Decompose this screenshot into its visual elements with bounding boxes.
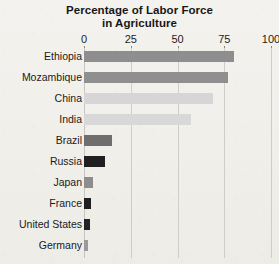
category-label-brazil: Brazil [56,132,82,154]
x-tick-label-25: 25 [125,33,137,45]
category-label-germany: Germany [39,237,82,259]
bar-rows: EthiopiaMozambiqueChinaIndiaBrazilRussia… [0,48,279,258]
bar-row: France [0,195,279,216]
bar-united-states [84,219,90,230]
bar-china [84,93,213,104]
x-tick-label-100: 100 [262,33,279,45]
bar-japan [84,177,93,188]
category-label-ethiopia: Ethiopia [44,48,82,70]
bar-row: China [0,90,279,111]
category-label-china: China [55,90,82,112]
bar-row: Germany [0,237,279,258]
bar-row: Mozambique [0,69,279,90]
category-label-india: India [59,111,82,133]
chart-title-line-2: in Agriculture [0,17,279,30]
bar-russia [84,156,105,167]
bar-row: United States [0,216,279,237]
bar-ethiopia [84,51,234,62]
bar-row: Brazil [0,132,279,153]
bar-row: Russia [0,153,279,174]
category-label-united-states: United States [19,216,82,238]
category-label-mozambique: Mozambique [22,69,82,91]
x-tick-label-50: 50 [171,33,183,45]
bar-row: Japan [0,174,279,195]
x-axis-tick-labels: 0255075100 [0,33,279,47]
bar-mozambique [84,72,228,83]
bar-germany [84,240,88,251]
bar-row: India [0,111,279,132]
x-tick-label-0: 0 [81,33,87,45]
category-label-japan: Japan [53,174,82,196]
bar-row: Ethiopia [0,48,279,69]
chart-title: Percentage of Labor Force in Agriculture [0,4,279,30]
bar-india [84,114,191,125]
bar-france [84,198,91,209]
category-label-france: France [49,195,82,217]
bar-brazil [84,135,112,146]
chart-title-line-1: Percentage of Labor Force [0,4,279,17]
x-tick-label-75: 75 [218,33,230,45]
bar-chart: Percentage of Labor Force in Agriculture… [0,0,279,264]
category-label-russia: Russia [50,153,82,175]
